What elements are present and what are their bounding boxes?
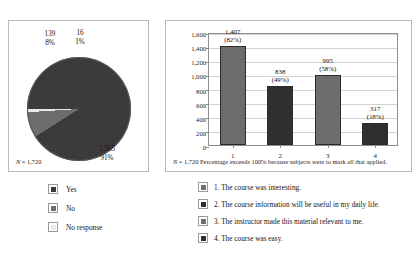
pie-legend-item: No response bbox=[48, 222, 102, 232]
bar-percent: (58%) bbox=[319, 65, 336, 73]
y-axis-tick-label: 1,200 bbox=[191, 59, 206, 66]
y-axis-tick-label: 1,000 bbox=[191, 73, 206, 80]
bar-legend-swatch-fill bbox=[201, 236, 206, 241]
pie-legend-label: No bbox=[66, 204, 75, 213]
bar-legend-swatch-fill bbox=[201, 219, 206, 224]
bar-value-label: 1,407(82%) bbox=[224, 28, 241, 45]
pie-legend-swatch bbox=[48, 184, 58, 194]
y-axis-tick-mark bbox=[206, 48, 209, 49]
pie-legend-swatch bbox=[48, 222, 58, 232]
bar-legend-item: 4. The course was easy. bbox=[198, 233, 380, 243]
y-axis-tick-label: 1,600 bbox=[191, 31, 206, 38]
bar-count: 317 bbox=[367, 105, 384, 113]
y-axis-tick-label: 800 bbox=[196, 87, 206, 94]
bar: 1,407(82%) bbox=[220, 46, 246, 145]
bar-count: 838 bbox=[272, 68, 289, 76]
pie-label-no-response: 161% bbox=[66, 29, 94, 46]
pie-chart-panel: 1398% 161% 1,56591% N = 1,720 bbox=[8, 20, 149, 172]
pie-legend-label: No response bbox=[66, 223, 102, 232]
bar-count: 995 bbox=[319, 57, 336, 65]
y-axis-tick-label: 0 bbox=[203, 144, 206, 151]
bar: 838(49%) bbox=[267, 86, 293, 145]
bar-value-label: 995(58%) bbox=[319, 57, 336, 74]
bar-legend-swatch bbox=[198, 199, 208, 209]
y-axis-tick-label: 1,400 bbox=[191, 45, 206, 52]
pie-label-noresp-line-1: 16 bbox=[66, 29, 94, 38]
pie-label-no: 1398% bbox=[33, 30, 67, 47]
pie-chart-note: N = 1,720 bbox=[16, 158, 41, 166]
y-axis-tick-label: 200 bbox=[196, 129, 206, 136]
y-axis-tick-mark bbox=[206, 147, 209, 148]
bar-legend-label: 2. The course information will be useful… bbox=[214, 200, 380, 209]
pie-label-no-line-2: 8% bbox=[33, 39, 67, 48]
bar-legend-item: 2. The course information will be useful… bbox=[198, 199, 380, 209]
bar-count: 1,407 bbox=[224, 28, 241, 36]
bar-value-label: 838(49%) bbox=[272, 68, 289, 85]
y-axis-tick-mark bbox=[206, 132, 209, 133]
pie-chart-legend: YesNoNo response bbox=[48, 184, 102, 241]
bar-value-label: 317(18%) bbox=[367, 105, 384, 122]
bar-legend-label: 1. The course was interesting. bbox=[214, 183, 301, 192]
pie-legend-swatch-fill bbox=[51, 206, 56, 211]
bar-legend-item: 3. The instructor made this material rel… bbox=[198, 216, 380, 226]
pie-legend-item: No bbox=[48, 203, 102, 213]
pie-legend-label: Yes bbox=[66, 185, 77, 194]
y-axis-tick-label: 600 bbox=[196, 101, 206, 108]
bar-chart-panel: 02004006008001,0001,2001,4001,6001,407(8… bbox=[165, 20, 412, 172]
y-axis-tick-label: 400 bbox=[196, 115, 206, 122]
bar-legend-swatch-fill bbox=[201, 202, 206, 207]
bar-legend-label: 4. The course was easy. bbox=[214, 234, 283, 243]
x-axis-tick-mark bbox=[233, 145, 234, 148]
x-axis-tick-mark bbox=[280, 145, 281, 148]
pie-legend-swatch bbox=[48, 203, 58, 213]
pie-legend-swatch-fill bbox=[51, 187, 56, 192]
pie-legend-swatch-fill bbox=[51, 225, 56, 230]
bar-legend-swatch bbox=[198, 233, 208, 243]
y-axis-tick-mark bbox=[206, 118, 209, 119]
y-axis-tick-mark bbox=[206, 90, 209, 91]
x-axis-tick-mark bbox=[375, 145, 376, 148]
bar-legend-label: 3. The instructor made this material rel… bbox=[214, 217, 363, 226]
pie-legend-item: Yes bbox=[48, 184, 102, 194]
pie-label-yes: 1,56591% bbox=[87, 145, 127, 162]
y-axis-tick-mark bbox=[206, 62, 209, 63]
pie-note-value: = 1,720 bbox=[20, 158, 41, 165]
y-axis-tick-mark bbox=[206, 34, 209, 35]
bar-legend-item: 1. The course was interesting. bbox=[198, 182, 380, 192]
x-axis-tick-mark bbox=[328, 145, 329, 148]
pie-label-yes-line-1: 1,565 bbox=[87, 145, 127, 154]
bar-chart-note: N = 1,720 Percentage exceeds 100% becaus… bbox=[173, 158, 387, 166]
bar-chart-legend: 1. The course was interesting.2. The cou… bbox=[198, 182, 380, 250]
y-axis-tick-mark bbox=[206, 104, 209, 105]
bar-legend-swatch-fill bbox=[201, 185, 206, 190]
pie-label-yes-line-2: 91% bbox=[87, 154, 127, 163]
pie-label-noresp-line-2: 1% bbox=[66, 38, 94, 47]
pie-label-no-line-1: 139 bbox=[33, 30, 67, 39]
bar-percent: (82%) bbox=[224, 36, 241, 44]
bar-percent: (18%) bbox=[367, 113, 384, 121]
bar-legend-swatch bbox=[198, 182, 208, 192]
bar-note-value: = 1,720 Percentage exceeds 100% because … bbox=[177, 158, 387, 165]
bar: 995(58%) bbox=[315, 75, 341, 145]
bar-percent: (49%) bbox=[272, 76, 289, 84]
bar-chart-plot-area: 02004006008001,0001,2001,4001,6001,407(8… bbox=[208, 33, 398, 146]
bar-legend-swatch bbox=[198, 216, 208, 226]
y-axis-tick-mark bbox=[206, 76, 209, 77]
bar: 317(18%) bbox=[362, 123, 388, 145]
